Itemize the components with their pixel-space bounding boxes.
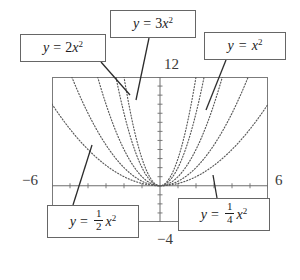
equation-quarter-x-squared: y = 1 4 x 2	[201, 202, 247, 226]
eq-exponent: 2	[243, 206, 248, 216]
equation-2x-squared: y = 2 x 2	[43, 40, 83, 56]
eq-exponent: 2	[78, 39, 83, 49]
x-axis-max-label: 6	[275, 172, 283, 189]
eq-equals: =	[49, 40, 65, 56]
callout-y-equals-quarter-x-squared[interactable]: y = 1 4 x 2	[178, 198, 270, 231]
eq-exponent: 2	[168, 15, 173, 25]
eq-equals: =	[234, 38, 252, 54]
callout-y-equals-half-x-squared[interactable]: y = 1 2 x 2	[47, 205, 139, 238]
fraction-one-half: 1 2	[94, 208, 104, 232]
eq-equals: =	[139, 16, 155, 32]
callout-y-equals-2x-squared[interactable]: y = 2 x 2	[20, 34, 106, 62]
fraction-numerator: 1	[225, 201, 235, 213]
x-axis-min-label: −6	[22, 172, 38, 189]
eq-exponent: 2	[112, 213, 117, 223]
eq-equals: =	[76, 214, 92, 230]
fraction-numerator: 1	[94, 208, 104, 220]
eq-exponent: 2	[258, 37, 263, 47]
callout-y-equals-x-squared[interactable]: y = x 2	[204, 32, 286, 60]
equation-half-x-squared: y = 1 2 x 2	[70, 209, 116, 233]
fraction-denominator: 2	[94, 220, 104, 233]
equation-x-squared: y = x 2	[228, 38, 263, 54]
y-axis-max-label: 12	[164, 56, 179, 73]
callout-y-equals-3x-squared[interactable]: y = 3 x 2	[110, 10, 196, 38]
fraction-denominator: 4	[225, 213, 235, 226]
equation-3x-squared: y = 3 x 2	[133, 16, 173, 32]
graph-figure: −6 6 12 −4 y = 2 x 2 y = 3 x 2 y =	[0, 0, 300, 280]
y-axis-min-label: −4	[157, 231, 173, 248]
fraction-one-quarter: 1 4	[225, 201, 235, 225]
eq-equals: =	[207, 207, 223, 223]
